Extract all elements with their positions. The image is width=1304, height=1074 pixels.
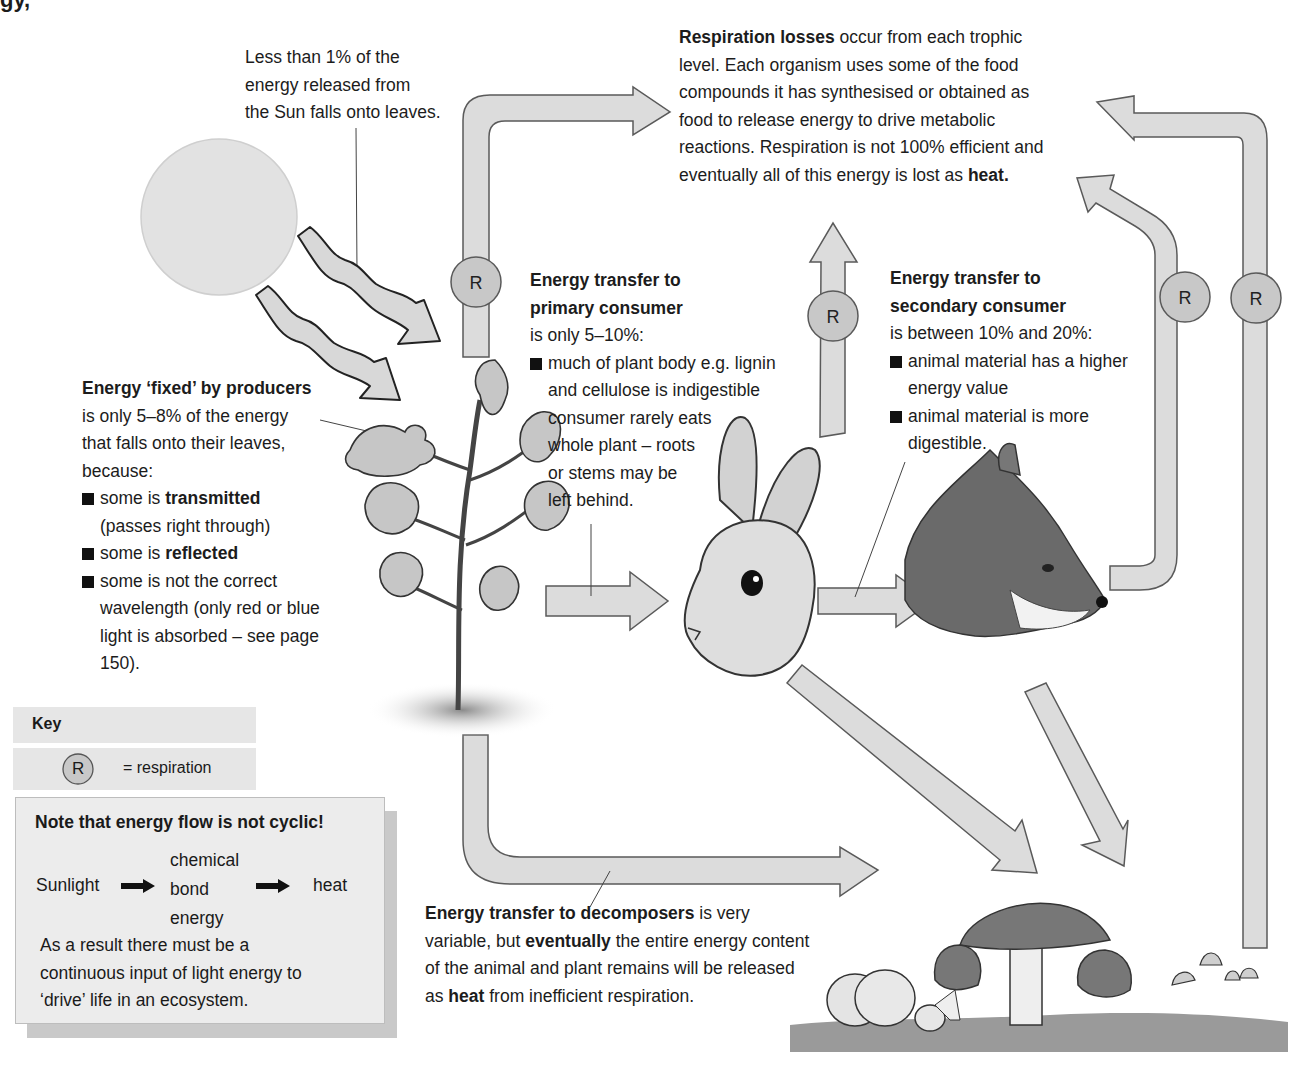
emphasis-heat: heat.	[968, 165, 1009, 185]
text-line: that falls onto their leaves,	[82, 430, 322, 458]
secondary-consumer-text: Energy transfer to secondary consumer is…	[890, 265, 1170, 458]
respiration-losses-text: Respiration losses occur from each troph…	[679, 24, 1109, 189]
producers-bullet-transmitted: some is transmitted(passes right through…	[82, 485, 322, 540]
sun-icon	[141, 139, 297, 295]
arrow-rabbit-to-decomposers	[787, 665, 1037, 873]
r-label: R	[470, 273, 483, 293]
sun-caption-line: energy released from	[245, 72, 441, 100]
note-title: Note that energy flow is not cyclic!	[35, 812, 324, 833]
r-label: R	[1250, 289, 1263, 309]
key-title: Key	[32, 715, 61, 733]
text-line: food to release energy to drive metaboli…	[679, 107, 1109, 135]
flow-heat: heat	[313, 875, 347, 896]
sunlight-wavy-arrow-1	[298, 227, 440, 344]
text-line: is only 5–10%:	[530, 322, 820, 350]
respiration-losses-title: Respiration losses	[679, 27, 835, 47]
fox-illustration	[905, 444, 1108, 637]
r-label: R	[827, 307, 840, 327]
primary-consumer-text: Energy transfer to primary consumer is o…	[530, 267, 820, 515]
sun-caption: Less than 1% of the energy released from…	[245, 44, 441, 127]
text-line: because:	[82, 458, 322, 486]
text-line: occur from each trophic	[840, 27, 1023, 47]
producers-bullet-wavelength: some is not the correct wavelength (only…	[82, 568, 320, 678]
text-line: compounds it has synthesised or obtained…	[679, 79, 1109, 107]
secondary-consumer-title: secondary consumer	[890, 293, 1170, 321]
primary-consumer-bullet: much of plant body e.g. lignin and cellu…	[530, 350, 820, 515]
sun-caption-line: Less than 1% of the	[245, 44, 441, 72]
arrow-fox-to-decomposers	[1025, 683, 1128, 866]
secondary-consumer-title: Energy transfer to	[890, 265, 1170, 293]
black-arrow-icon	[256, 879, 290, 893]
text-line: is only 5–8% of the energy	[82, 403, 322, 431]
respiration-arrow-decomposers	[1097, 96, 1267, 948]
secondary-consumer-bullet-digestible: animal material is moredigestible.	[890, 403, 1170, 458]
decomposers-text: Energy transfer to decomposers is very v…	[425, 900, 885, 1010]
text-line: level. Each organism uses some of the fo…	[679, 52, 1109, 80]
header-partial-title: gy,	[0, 0, 30, 14]
key-meaning: = respiration	[123, 759, 212, 777]
text-line: eventually all of this energy is lost as	[679, 165, 963, 185]
flow-sunlight: Sunlight	[36, 875, 99, 896]
arrow-plant-to-rabbit	[546, 572, 668, 630]
black-arrow-icon	[121, 879, 155, 893]
r-label: R	[1179, 288, 1192, 308]
note-box: Note that energy flow is not cyclic! Sun…	[15, 797, 385, 1024]
sun-caption-line: the Sun falls onto leaves.	[245, 99, 441, 127]
note-body: As a result there must be a continuous i…	[40, 932, 380, 1015]
key-symbol-label: R	[72, 759, 84, 779]
key-entry: R = respiration	[13, 748, 256, 790]
producers-title: Energy ‘fixed’ by producers	[82, 375, 322, 403]
primary-consumer-title: Energy transfer to	[530, 267, 820, 295]
producers-bullet-reflected: some is reflected	[82, 540, 322, 568]
text-line: is between 10% and 20%:	[890, 320, 1170, 348]
key-header: Key	[13, 707, 256, 743]
arrow-plant-to-decomposers	[463, 735, 878, 896]
flow-chemical-bond-energy: chemicalbondenergy	[170, 846, 239, 933]
secondary-consumer-bullet-energy: animal material has a higherenergy value	[890, 348, 1170, 403]
primary-consumer-title: primary consumer	[530, 295, 820, 323]
producers-text: Energy ‘fixed’ by producers is only 5–8%…	[82, 375, 322, 678]
text-line: reactions. Respiration is not 100% effic…	[679, 134, 1109, 162]
